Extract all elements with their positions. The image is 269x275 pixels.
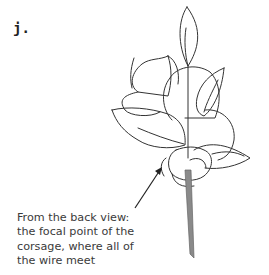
- caption-line: the focal point of the: [17, 225, 167, 239]
- right-bottom-leaf: [194, 145, 250, 169]
- right-upper-leaf: [196, 68, 224, 116]
- caption-line: corsage, where all of: [17, 240, 167, 254]
- caption-line: From the back view:: [17, 211, 167, 225]
- top-bud-leaf: [180, 7, 198, 66]
- left-upper-petal: [132, 56, 171, 96]
- pointer-arrow: [135, 167, 162, 208]
- stem: [185, 170, 194, 258]
- caption: From the back view: the focal point of t…: [17, 211, 167, 268]
- arrowhead: [155, 167, 162, 175]
- caption-line: the wire meet: [17, 254, 167, 268]
